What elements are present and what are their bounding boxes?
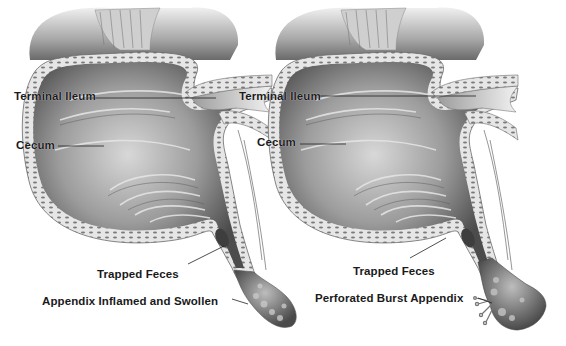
appendicitis-diagram: Terminal Ileum Cecum Trapped Feces Appen…: [0, 0, 566, 346]
label-trapped-feces-right: Trapped Feces: [353, 265, 435, 277]
label-cecum-right: Cecum: [257, 136, 296, 148]
label-trapped-feces-left: Trapped Feces: [97, 268, 179, 280]
label-appendix-inflamed: Appendix Inflamed and Swollen: [42, 295, 218, 307]
label-cecum-left: Cecum: [16, 139, 55, 151]
label-terminal-ileum-right: Terminal Ileum: [239, 90, 321, 102]
right-panel-illustration: [268, 8, 546, 330]
label-terminal-ileum-left: Terminal Ileum: [14, 90, 96, 102]
label-appendix-perforated: Perforated Burst Appendix: [315, 292, 463, 304]
